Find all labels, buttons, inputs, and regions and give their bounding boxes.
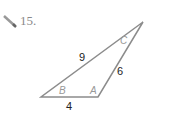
angle-label-c: C — [120, 35, 128, 46]
side-label-bc: 9 — [79, 51, 85, 63]
triangle-diagram: 9 6 4 B A C — [0, 0, 177, 119]
side-label-ab: 4 — [66, 100, 72, 112]
angle-label-b: B — [59, 85, 66, 96]
angle-label-a: A — [89, 85, 97, 96]
side-label-ac: 6 — [117, 65, 123, 77]
